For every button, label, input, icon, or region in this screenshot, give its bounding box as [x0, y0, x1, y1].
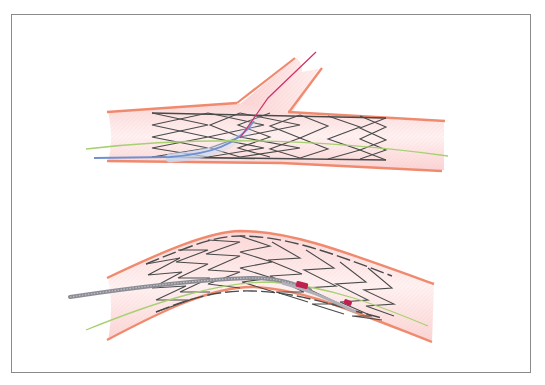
- top-panel-bifurcation: [86, 52, 448, 171]
- bottom-panel-curved-vessel: [70, 231, 434, 342]
- figure-canvas: Illustration of coronary stenting: top p…: [0, 0, 545, 385]
